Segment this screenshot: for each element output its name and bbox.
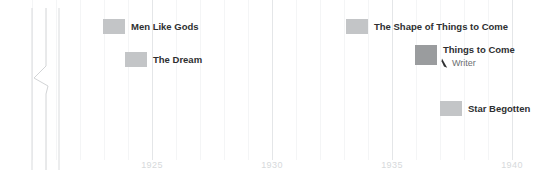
gridline-minor <box>368 0 369 160</box>
annotation-writer-label: Writer <box>452 58 476 69</box>
timeline-bar[interactable] <box>346 19 368 34</box>
bar-label: The Shape of Things to Come <box>374 21 508 33</box>
gridline-major <box>512 0 513 160</box>
gridline-minor <box>128 0 129 160</box>
axis-break-icon <box>26 6 72 170</box>
gridline-minor <box>344 0 345 160</box>
gridline-minor <box>248 0 249 160</box>
gridline-major <box>272 0 273 160</box>
timeline-bar[interactable] <box>125 52 147 67</box>
axis-break-squiggle <box>26 6 72 170</box>
timeline-chart: Men Like GodsThe DreamThe Shape of Thing… <box>0 0 548 183</box>
gridline-minor <box>80 0 81 160</box>
x-axis-tick-label: 1940 <box>501 160 523 170</box>
bar-label: Star Begotten <box>468 103 530 115</box>
bar-label: The Dream <box>153 54 202 66</box>
gridline-minor <box>200 0 201 160</box>
x-axis-tick-label: 1925 <box>141 160 163 170</box>
bar-label: Things to Come <box>443 44 515 56</box>
pen-nib-icon <box>441 55 449 66</box>
gridline-minor <box>320 0 321 160</box>
gridline-minor <box>224 0 225 160</box>
bar-label: Men Like Gods <box>131 21 199 33</box>
plot-area: Men Like GodsThe DreamThe Shape of Thing… <box>0 0 548 183</box>
timeline-bar[interactable] <box>103 19 125 34</box>
x-axis-tick-label: 1935 <box>381 160 403 170</box>
x-axis-tick-label: 1930 <box>261 160 283 170</box>
gridline-minor <box>296 0 297 160</box>
timeline-bar[interactable] <box>440 101 462 116</box>
timeline-bar[interactable] <box>415 45 437 65</box>
